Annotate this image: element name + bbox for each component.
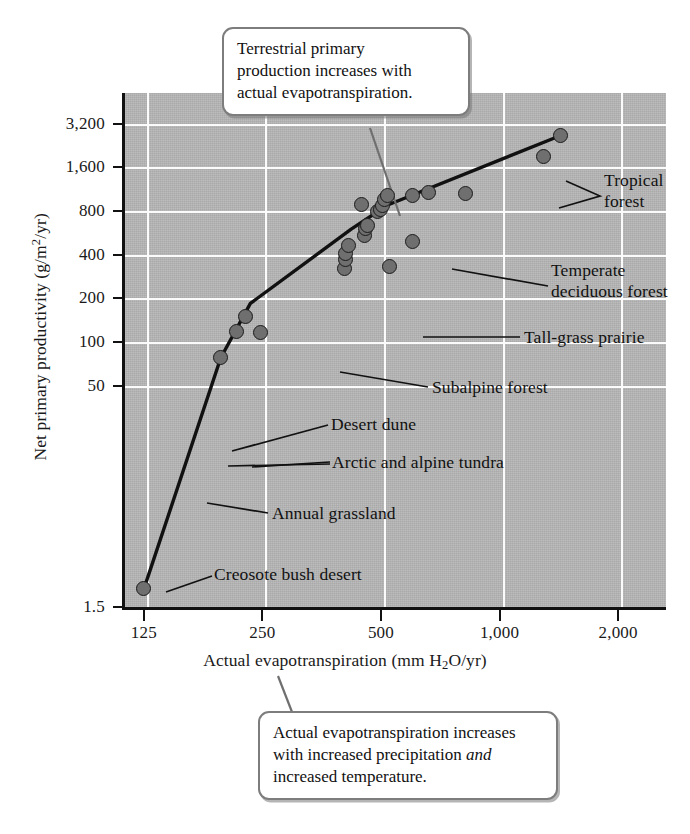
label-subalpine-forest: Subalpine forest — [432, 377, 548, 398]
callout-top-line1: Terrestrial primary — [237, 38, 455, 60]
callout-bottom-line2-text: with increased precipitation — [273, 745, 466, 764]
label-annual-grassland: Annual grassland — [272, 503, 396, 524]
label-tropical-forest-line1: Tropical — [604, 170, 663, 191]
callout-bottom-line1: Actual evapotranspiration increases — [273, 722, 543, 744]
plot-texture — [125, 93, 666, 607]
callout-bottom-line2-italic: and — [466, 745, 492, 764]
y-tick-mark — [113, 254, 122, 256]
x-tick-mark — [617, 610, 619, 621]
gridline-vertical — [384, 93, 386, 607]
y-tick-mark — [113, 606, 122, 608]
gridline-vertical — [503, 93, 505, 607]
callout-bottom-line3: increased temperature. — [273, 766, 543, 788]
gridline-horizontal — [125, 255, 666, 257]
x-tick-mark — [380, 610, 382, 621]
callout-bottom: Actual evapotranspiration increases with… — [258, 711, 558, 800]
x-tick-label: 2,000 — [583, 624, 653, 642]
callout-top-line2: production increases with — [237, 60, 455, 82]
callout-top: Terrestrial primary production increases… — [222, 27, 470, 116]
y-tick-mark — [113, 297, 122, 299]
label-tall-grass-prairie: Tall-grass prairie — [524, 327, 645, 348]
x-tick-mark — [143, 610, 145, 621]
y-tick-mark — [113, 341, 122, 343]
y-tick-mark — [113, 166, 122, 168]
label-arctic-and-alpine-tundra: Arctic and alpine tundra — [332, 452, 504, 473]
x-tick-mark — [499, 610, 501, 621]
label-tropical-forest: Tropical forest — [604, 170, 663, 211]
y-axis-title: Net primary productivity (g/m2/yr) — [29, 147, 51, 527]
gridline-horizontal — [125, 167, 666, 169]
x-tick-mark — [261, 610, 263, 621]
gridline-horizontal — [125, 124, 666, 126]
y-tick-label: 1.5 — [33, 598, 105, 615]
callout-bottom-pointer — [278, 676, 292, 712]
callout-bottom-line2: with increased precipitation and — [273, 744, 543, 766]
label-creosote-bush-desert: Creosote bush desert — [214, 564, 362, 585]
gridline-vertical — [147, 93, 149, 607]
callout-top-line3: actual evapotranspiration. — [237, 82, 455, 104]
gridline-vertical — [265, 93, 267, 607]
x-tick-label: 250 — [227, 624, 297, 642]
gridline-horizontal — [125, 386, 666, 388]
y-tick-label: 3,200 — [33, 115, 105, 132]
y-tick-mark — [113, 385, 122, 387]
label-temperate-deciduous-forest: Temperate deciduous forest — [551, 260, 668, 301]
label-desert-dune: Desert dune — [331, 414, 416, 435]
y-tick-mark — [113, 210, 122, 212]
label-temperate-deciduous-forest-line2: deciduous forest — [551, 281, 668, 302]
y-tick-mark — [113, 123, 122, 125]
x-tick-label: 1,000 — [465, 624, 535, 642]
x-axis-title: Actual evapotranspiration (mm H2O/yr) — [0, 650, 690, 673]
label-tropical-forest-line2: forest — [604, 191, 663, 212]
label-temperate-deciduous-forest-line1: Temperate — [551, 260, 668, 281]
x-tick-label: 500 — [346, 624, 416, 642]
plot-area — [122, 93, 666, 610]
x-tick-label: 125 — [109, 624, 179, 642]
gridline-horizontal — [125, 211, 666, 213]
figure-scatter-npp-vs-aet: 3,2001,600800400200100501.5 Net primary … — [0, 0, 690, 834]
